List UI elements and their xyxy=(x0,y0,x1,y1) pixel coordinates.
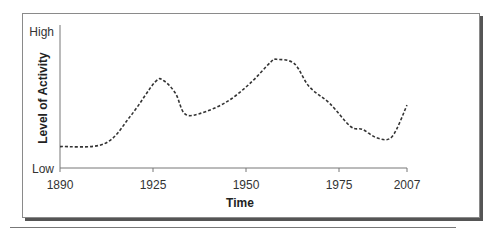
x-tick-label: 1890 xyxy=(47,178,74,192)
y-axis-title: Level of Activity xyxy=(36,52,50,144)
x-tick-label: 1975 xyxy=(326,178,353,192)
x-tick-label: 1925 xyxy=(140,178,167,192)
x-tick-label: 1950 xyxy=(233,178,260,192)
activity-line xyxy=(60,59,407,147)
x-axis-title: Time xyxy=(226,196,254,210)
line-chart: High Low Level of Activity 1890 1925 195… xyxy=(0,0,486,237)
y-high-label: High xyxy=(29,25,54,39)
x-tick-label: 2007 xyxy=(394,178,421,192)
y-low-label: Low xyxy=(32,162,54,176)
x-ticks xyxy=(60,168,407,172)
